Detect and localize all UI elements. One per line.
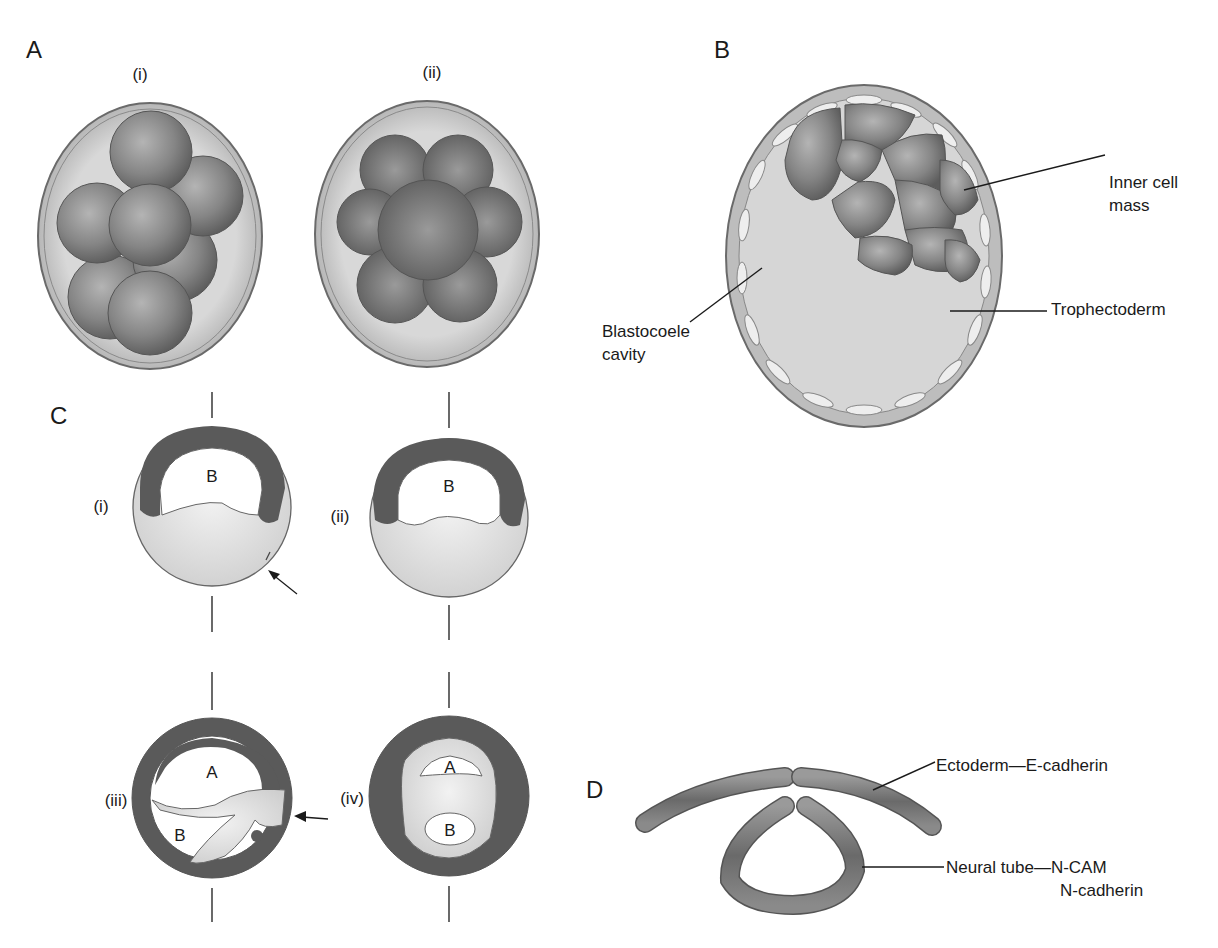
embryo-c-iv: A B (iv) (340, 716, 529, 876)
c-ii-cavity-b: B (443, 477, 454, 496)
panel-a: A (i) (ii) (26, 36, 539, 369)
c-i-cavity-b: B (206, 467, 217, 486)
panel-b-letter: B (714, 36, 730, 63)
c-iii-cavity-a: A (206, 763, 218, 782)
label-neural-tube-1: Neural tube—N-CAM (946, 858, 1107, 877)
c-sub-iv: (iv) (340, 789, 364, 808)
label-ectoderm: Ectoderm—E-cadherin (936, 756, 1108, 775)
compacted-morula (315, 101, 539, 367)
label-neural-tube-2: N-cadherin (1060, 881, 1143, 900)
embryo-c-i: B (i) (93, 426, 297, 594)
blastocyst (726, 85, 1002, 427)
label-trophectoderm: Trophectoderm (1051, 300, 1166, 319)
panel-a-sub-i: (i) (132, 65, 147, 84)
panel-a-sub-ii: (ii) (423, 63, 442, 82)
panel-c: C B (i) B (ii) (50, 392, 529, 922)
label-inner-cell-mass-2: mass (1109, 196, 1150, 215)
panel-c-letter: C (50, 402, 67, 429)
embryo-c-ii: B (ii) (331, 438, 528, 597)
c-sub-iii: (iii) (105, 791, 128, 810)
panel-b: B (602, 36, 1178, 427)
neural-tube (730, 806, 855, 905)
eight-cell-embryo (38, 103, 262, 369)
embryo-c-iii: A B (iii) (105, 718, 328, 878)
c-iv-cavity-a: A (444, 758, 456, 777)
c-sub-ii: (ii) (331, 507, 350, 526)
c-iii-cavity-b: B (174, 826, 185, 845)
c-iv-cavity-b: B (444, 821, 455, 840)
label-blastocoele-2: cavity (602, 345, 646, 364)
arrow-icon (294, 811, 306, 822)
label-blastocoele-1: Blastocoele (602, 322, 690, 341)
panel-d-letter: D (586, 776, 603, 803)
label-inner-cell-mass-1: Inner cell (1109, 173, 1178, 192)
panel-a-letter: A (26, 36, 42, 63)
c-sub-i: (i) (93, 497, 108, 516)
figure-canvas: A (i) (ii) (0, 0, 1218, 948)
panel-d: D Ectoderm—E-cadherin Neural tube—N-CAM … (586, 756, 1143, 905)
